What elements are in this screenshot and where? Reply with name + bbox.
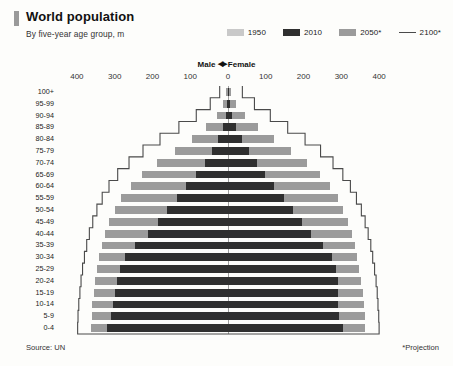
y-axis-label: 20-24	[36, 277, 54, 285]
x-tick-label: 200	[146, 72, 159, 81]
bar-female-2010	[228, 171, 265, 179]
y-axis-label: 70-74	[36, 159, 54, 167]
pyramid-canvas	[58, 86, 398, 334]
bar-male-2010	[158, 218, 228, 226]
x-tick-label: 200	[297, 72, 310, 81]
bar-female-2010	[228, 123, 236, 131]
bar-male-2010	[120, 265, 228, 273]
bar-female-2010	[228, 159, 257, 167]
bar-female-2010	[228, 206, 293, 214]
bar-male-2010	[113, 301, 228, 309]
bar-male-2010	[148, 230, 228, 238]
bar-male-2010	[107, 324, 228, 332]
y-axis-label: 55-59	[36, 194, 54, 202]
bar-male-2010	[117, 277, 228, 285]
bar-row	[58, 88, 398, 96]
y-axis-label: 40-44	[36, 230, 54, 238]
bar-female-2010	[228, 147, 249, 155]
y-axis-label: 25-29	[36, 265, 54, 273]
legend-swatch-icon	[227, 29, 244, 36]
bar-row	[58, 112, 398, 120]
bar-row	[58, 206, 398, 214]
bar-row	[58, 312, 398, 320]
plot-area: 100+95-9990-9485-8980-8475-7970-7465-696…	[0, 86, 453, 334]
legend-label: 2100*	[420, 28, 441, 37]
male-label: Male	[198, 60, 216, 69]
legend-item-2100: 2100*	[399, 28, 441, 37]
y-axis-label: 60-64	[36, 182, 54, 190]
bar-row	[58, 182, 398, 190]
bar-female-2010	[228, 324, 343, 332]
bar-row	[58, 100, 398, 108]
chart-container: World population By five-year age group,…	[0, 0, 453, 366]
y-axis-label: 35-39	[36, 241, 54, 249]
y-axis-label: 0-4	[44, 324, 54, 332]
bar-row	[58, 218, 398, 226]
bar-row	[58, 230, 398, 238]
bar-male-2010	[196, 171, 228, 179]
legend-swatch-icon	[283, 29, 300, 36]
bar-female-2010	[228, 289, 338, 297]
y-axis-label: 45-49	[36, 218, 54, 226]
y-axis-label: 5-9	[44, 312, 54, 320]
bar-row	[58, 301, 398, 309]
legend-label: 1950	[248, 28, 266, 37]
bar-female-2010	[228, 253, 332, 261]
x-tick-label: 100	[184, 72, 197, 81]
right-arrow-icon: ▶	[222, 60, 226, 68]
y-axis-label: 65-69	[36, 171, 54, 179]
bar-female-2010	[228, 88, 229, 96]
y-axis-label: 80-84	[36, 135, 54, 143]
x-axis-ticks: 4003002001000100200300400	[0, 72, 453, 82]
bar-row	[58, 289, 398, 297]
bar-row	[58, 253, 398, 261]
bar-male-2010	[167, 206, 228, 214]
bar-male-2010	[212, 147, 228, 155]
bar-row	[58, 123, 398, 131]
bar-male-2010	[177, 194, 228, 202]
bar-female-2010	[228, 242, 323, 250]
y-axis-label: 50-54	[36, 206, 54, 214]
y-axis-label: 10-14	[36, 300, 54, 308]
bar-row	[58, 242, 398, 250]
female-label: Female	[228, 60, 256, 69]
bar-row	[58, 159, 398, 167]
chart-subtitle: By five-year age group, m	[26, 29, 124, 39]
y-axis-label: 90-94	[36, 112, 54, 120]
bar-female-2010	[228, 194, 284, 202]
bar-female-2010	[228, 265, 336, 273]
bar-male-2010	[205, 159, 228, 167]
bar-female-2010	[228, 182, 274, 190]
source-note: Source: UN	[26, 343, 65, 352]
bar-row	[58, 265, 398, 273]
page-title: World population	[26, 10, 134, 24]
bar-row	[58, 277, 398, 285]
bar-female-2010	[228, 100, 230, 108]
y-axis-label: 85-89	[36, 123, 54, 131]
bar-female-2010	[228, 218, 302, 226]
bar-male-2010	[135, 242, 228, 250]
x-tick-label: 400	[372, 72, 385, 81]
bar-row	[58, 147, 398, 155]
chart-legend: 195020102050*2100*	[227, 28, 441, 37]
bar-male-2010	[125, 253, 228, 261]
male-female-indicator: Male ◀▶ Female	[0, 60, 453, 69]
y-axis-label: 30-34	[36, 253, 54, 261]
accent-bar-icon	[14, 11, 19, 26]
legend-item-2010: 2010	[283, 28, 322, 37]
bar-row	[58, 135, 398, 143]
bar-row	[58, 324, 398, 332]
legend-item-1950: 1950	[227, 28, 266, 37]
bar-female-2010	[228, 135, 242, 143]
x-tick-label: 100	[259, 72, 272, 81]
y-axis-label: 100+	[38, 88, 54, 96]
legend-swatch-icon	[339, 29, 356, 36]
bar-female-2010	[228, 301, 338, 309]
legend-label: 2050*	[360, 28, 381, 37]
legend-label: 2010	[304, 28, 322, 37]
bar-male-2010	[115, 289, 228, 297]
legend-line-icon	[399, 32, 416, 33]
bar-male-2010	[218, 135, 228, 143]
y-axis-labels: 100+95-9990-9485-8980-8475-7970-7465-696…	[0, 86, 58, 334]
bar-female-2010	[228, 112, 232, 120]
